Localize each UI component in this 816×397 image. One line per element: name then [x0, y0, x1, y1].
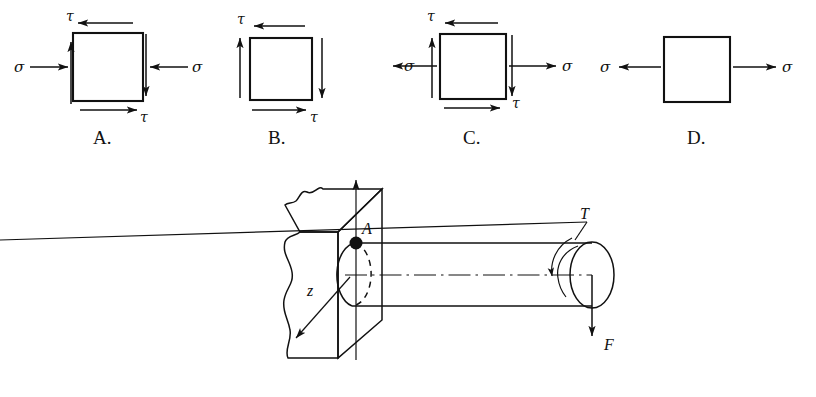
option-a-tau-top-label: τ — [66, 8, 74, 24]
option-d-letter: D. — [687, 127, 705, 148]
option-c-group[interactable]: σ σ τ τ C. — [393, 8, 573, 148]
option-b-letter: B. — [268, 127, 285, 148]
option-a-tau-bottom-label: τ — [140, 109, 148, 125]
option-b-group[interactable]: τ τ B. — [237, 11, 322, 148]
option-c-sigma-left-label: σ — [404, 57, 415, 75]
option-a-letter: A. — [93, 127, 111, 148]
force-label: F — [603, 336, 614, 353]
option-d-square — [664, 37, 730, 102]
torque-label: T — [580, 205, 590, 222]
option-c-sigma-right-label: σ — [562, 57, 573, 75]
shaft-diagram-group[interactable]: A z T F — [0, 180, 614, 360]
option-b-tau-bottom-label: τ — [310, 109, 318, 125]
option-d-sigma-left-label: σ — [600, 58, 611, 76]
torque-leader — [575, 222, 587, 240]
option-a-group[interactable]: σ σ τ τ A. — [14, 8, 203, 148]
option-c-letter: C. — [463, 127, 480, 148]
torque-leader-line — [0, 222, 587, 240]
option-c-tau-top-label: τ — [427, 8, 435, 24]
option-d-group[interactable]: σ σ D. — [600, 37, 793, 148]
option-a-sigma-left-label: σ — [14, 58, 25, 76]
figure-root: σ σ τ τ A. τ τ B. σ σ — [0, 0, 816, 397]
z-axis-label: z — [306, 282, 314, 299]
option-c-tau-bottom-label: τ — [512, 95, 520, 111]
stress-figure: σ σ τ τ A. τ τ B. σ σ — [0, 0, 816, 397]
option-a-sigma-right-label: σ — [192, 58, 203, 76]
wall-right-face — [338, 189, 382, 358]
option-b-square — [250, 38, 312, 100]
option-b-tau-top-label: τ — [237, 11, 245, 27]
z-axis-arrow — [296, 277, 350, 338]
point-a-label: A — [361, 220, 372, 237]
option-a-square — [73, 33, 143, 101]
option-c-square — [440, 34, 506, 99]
point-a-marker — [350, 237, 363, 250]
option-d-sigma-right-label: σ — [782, 58, 793, 76]
